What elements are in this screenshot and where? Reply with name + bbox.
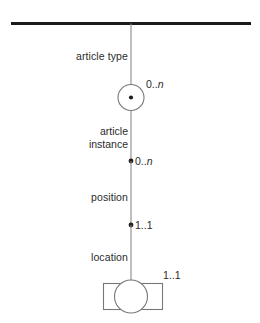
cardinality-article-instance: 0..n	[135, 155, 153, 167]
cardinality-article-type: 0..n	[146, 78, 164, 90]
role-label-article-type: article type	[38, 50, 128, 62]
role-label-article-instance-line1: article	[38, 125, 128, 138]
diagram-graphics	[0, 0, 260, 323]
cardinality-position-prefix: 1..	[135, 219, 147, 231]
cardinality-position: 1..1	[135, 219, 153, 231]
cardinality-article-type-prefix: 0..	[146, 78, 158, 90]
cardinality-location: 1..1	[163, 269, 181, 281]
cardinality-article-type-suffix: n	[158, 78, 164, 90]
role-label-position: position	[38, 191, 128, 203]
role-label-article-instance: article instance	[38, 125, 128, 150]
cardinality-position-suffix: 1	[147, 219, 153, 231]
cardinality-location-suffix: 1	[175, 269, 181, 281]
location-entity-circle	[115, 280, 148, 313]
diagram-canvas: article type 0..n article instance 0..n …	[0, 0, 260, 323]
role-label-location: location	[38, 251, 128, 263]
article-type-relation-center-dot	[129, 95, 133, 99]
cardinality-article-instance-prefix: 0..	[135, 155, 147, 167]
role-label-article-instance-line2: instance	[38, 138, 128, 151]
cardinality-article-instance-suffix: n	[147, 155, 153, 167]
cardinality-location-prefix: 1..	[163, 269, 175, 281]
